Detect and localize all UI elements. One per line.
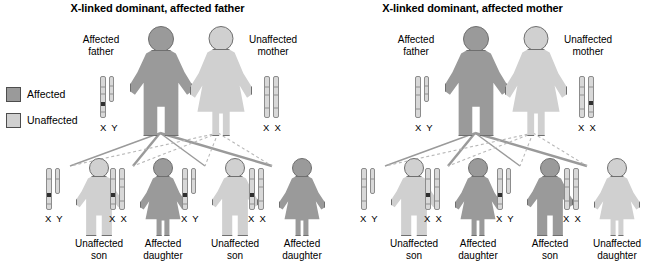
chromosome-x [46, 168, 52, 210]
father-chromosomes [100, 76, 114, 118]
child-2-karyotype: X X [109, 213, 128, 224]
father-figure [445, 26, 507, 136]
chromosome-x-2 [573, 168, 579, 210]
chromosome-x-2 [434, 168, 440, 210]
child-3-karyotype: X Y [496, 213, 515, 224]
chromosome-x-1 [110, 168, 116, 210]
legend-item-unaffected: Unaffected [6, 110, 78, 130]
panel-title: X-linked dominant, affected mother [315, 2, 630, 14]
child-1-chromosomes [46, 168, 60, 210]
child-4-chromosomes [249, 168, 264, 210]
mother-figure [190, 26, 252, 136]
chromosome-x [415, 76, 421, 118]
child-4-figure [594, 158, 640, 236]
panel-affected-father: X-linked dominant, affected father Affec… [0, 0, 315, 267]
mother-karyotype: X X [578, 122, 597, 133]
chromosome-y [370, 168, 375, 194]
chromosome-x-2 [273, 76, 279, 118]
chromosome-y [55, 168, 60, 194]
affected-swatch [6, 87, 21, 102]
chromosome-x [182, 168, 188, 210]
father-karyotype: X Y [100, 122, 119, 133]
chromosome-x-1 [249, 168, 255, 210]
mother-karyotype: X X [263, 122, 282, 133]
chromosome-y [109, 76, 114, 102]
chromosome-x-1 [264, 76, 270, 118]
child-2-chromosomes [425, 168, 440, 210]
legend: Affected Unaffected [6, 84, 78, 136]
child-2-chromosomes [110, 168, 125, 210]
child-4-karyotype: X X [563, 213, 582, 224]
child-3-chromosomes [182, 168, 196, 210]
father-label: Affected father [70, 34, 132, 57]
mother-chromosomes [579, 76, 594, 118]
child-3-chromosomes [497, 168, 511, 210]
child-1-karyotype: X Y [45, 213, 64, 224]
father-figure [130, 26, 192, 136]
chromosome-x-1 [425, 168, 431, 210]
child-1-chromosomes [361, 168, 375, 210]
chromosome-x [100, 76, 106, 118]
child-2-karyotype: X X [424, 213, 443, 224]
child-4-karyotype: X X [248, 213, 267, 224]
child-3-karyotype: X Y [181, 213, 200, 224]
child-4-label: Unaffected daughter [574, 238, 646, 261]
child-4-chromosomes [564, 168, 579, 210]
child-2-figure [455, 158, 501, 236]
chromosome-x-2 [588, 76, 594, 118]
father-chromosomes [415, 76, 429, 118]
father-karyotype: X Y [415, 122, 434, 133]
unaffected-swatch [6, 113, 21, 128]
chromosome-x-2 [119, 168, 125, 210]
panel-title: X-linked dominant, affected father [0, 2, 315, 14]
panel-affected-mother: X-linked dominant, affected mother Affec… [315, 0, 630, 267]
father-label: Affected father [385, 34, 447, 57]
mother-chromosomes [264, 76, 279, 118]
chromosome-x-1 [564, 168, 570, 210]
chromosome-x [497, 168, 503, 210]
legend-item-affected: Affected [6, 84, 78, 104]
legend-label-unaffected: Unaffected [27, 114, 78, 126]
chromosome-x-2 [258, 168, 264, 210]
chromosome-y [424, 76, 429, 102]
child-2-figure [140, 158, 186, 236]
chromosome-x [361, 168, 367, 210]
chromosome-y [191, 168, 196, 194]
chromosome-x-1 [579, 76, 585, 118]
child-1-karyotype: X Y [360, 213, 379, 224]
chromosome-y [506, 168, 511, 194]
legend-label-affected: Affected [27, 88, 65, 100]
mother-figure [505, 26, 567, 136]
